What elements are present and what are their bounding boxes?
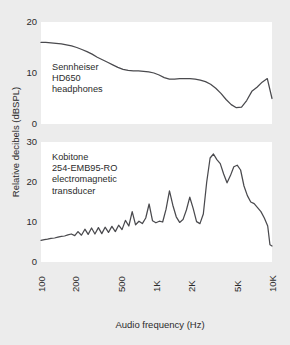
x-tick-label: 500 (116, 276, 127, 292)
x-tick-label: 1K (151, 280, 162, 292)
x-axis-ticks: 1002005001K2K5K10K (36, 274, 278, 292)
x-tick-label: 200 (70, 276, 81, 292)
annotation-line: Sennheiser (52, 62, 98, 72)
y-axis-title: Relative decibels (dBSPL) (10, 87, 21, 197)
annotation-line: headphones (52, 84, 103, 94)
y-tick-label: 10 (26, 67, 37, 78)
annotation-line: Kobitone (52, 152, 88, 162)
x-tick-label: 2K (186, 280, 197, 292)
y-tick-label: 10 (26, 216, 37, 227)
frequency-response-chart: 01020 0102030 1002005001K2K5K10K Sennhei… (0, 0, 290, 345)
y-tick-label: 20 (26, 176, 37, 187)
annotation-line: transducer (52, 186, 95, 196)
chart-figure: 01020 0102030 1002005001K2K5K10K Sennhei… (0, 0, 290, 345)
y-tick-label: 0 (32, 118, 37, 129)
x-tick-label: 5K (232, 280, 243, 292)
y-tick-label: 20 (26, 16, 37, 27)
x-tick-label: 10K (267, 274, 278, 292)
annotation-line: 254-EMB95-RO (52, 163, 117, 173)
x-axis-title: Audio frequency (Hz) (115, 319, 204, 330)
x-tick-label: 100 (36, 276, 47, 292)
top-panel-y-axis: 01020 (26, 16, 37, 129)
bottom-panel-y-axis: 0102030 (26, 136, 37, 267)
y-tick-label: 30 (26, 136, 37, 147)
annotation-line: electromagnetic (52, 174, 117, 184)
y-tick-label: 0 (32, 256, 37, 267)
annotation-line: HD650 (52, 73, 81, 83)
